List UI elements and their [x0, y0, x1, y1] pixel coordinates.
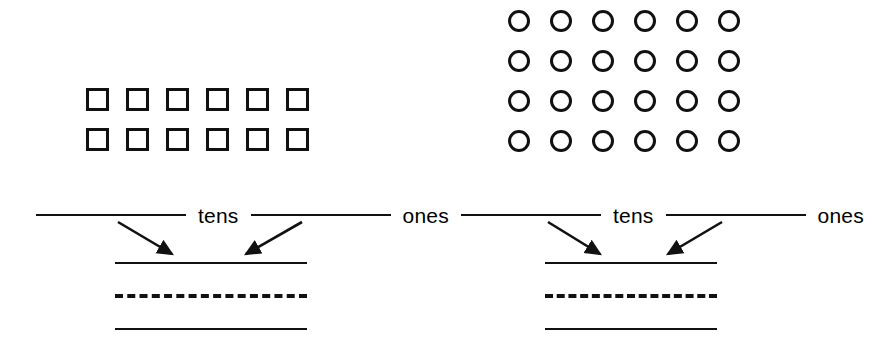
circle-cell	[508, 90, 530, 112]
guide-top-line-circles	[545, 262, 717, 264]
circle-cell	[634, 10, 656, 32]
square-cell	[166, 88, 189, 111]
circle-icon	[508, 90, 530, 112]
square-cell	[126, 128, 149, 151]
circle-icon	[634, 50, 656, 72]
circle-icon	[592, 90, 614, 112]
circle-cell	[592, 10, 614, 32]
square-manipulative-grid	[86, 88, 309, 151]
tens-blank-circles[interactable]	[461, 214, 601, 216]
circle-icon	[592, 50, 614, 72]
circle-cell	[592, 130, 614, 152]
ones-label-squares: ones	[403, 205, 449, 226]
square-icon	[166, 128, 189, 151]
circle-row	[508, 130, 740, 152]
circle-icon	[634, 130, 656, 152]
circle-icon	[718, 10, 740, 32]
circle-icon	[676, 50, 698, 72]
circle-icon	[508, 10, 530, 32]
circle-cell	[676, 130, 698, 152]
guide-middle-line-circles	[545, 294, 717, 298]
square-icon	[206, 88, 229, 111]
writing-guide-circles[interactable]	[545, 262, 717, 330]
square-cell	[86, 128, 109, 151]
circle-cell	[592, 50, 614, 72]
circle-cell	[550, 130, 572, 152]
circle-manipulative-grid	[508, 10, 740, 152]
square-cell	[166, 128, 189, 151]
circle-cell	[676, 90, 698, 112]
circle-icon	[550, 130, 572, 152]
circle-icon	[508, 130, 530, 152]
square-icon	[166, 88, 189, 111]
guide-middle-line-squares	[115, 294, 307, 298]
circle-row	[508, 90, 740, 112]
circle-icon	[718, 130, 740, 152]
square-cell	[206, 88, 229, 111]
circle-cell	[550, 10, 572, 32]
square-cell	[246, 88, 269, 111]
square-icon	[286, 128, 309, 151]
ones-blank-squares[interactable]	[251, 214, 391, 216]
circle-cell	[676, 10, 698, 32]
circle-cell	[508, 50, 530, 72]
writing-guide-squares[interactable]	[115, 262, 307, 330]
tens-blank-squares[interactable]	[36, 214, 186, 216]
square-icon	[86, 88, 109, 111]
circle-cell	[592, 90, 614, 112]
circle-cell	[718, 90, 740, 112]
square-icon	[126, 88, 149, 111]
square-row	[86, 88, 309, 111]
circle-cell	[718, 50, 740, 72]
worksheet-page: tens ones tens ones	[0, 0, 893, 346]
circle-icon	[550, 10, 572, 32]
circle-icon	[634, 90, 656, 112]
circle-cell	[508, 130, 530, 152]
square-icon	[246, 128, 269, 151]
circle-icon	[550, 90, 572, 112]
place-value-row-circles: tens ones	[461, 200, 864, 230]
circle-row	[508, 10, 740, 32]
square-cell	[286, 88, 309, 111]
circle-row	[508, 50, 740, 72]
circle-icon	[676, 90, 698, 112]
circle-icon	[676, 130, 698, 152]
square-cell	[126, 88, 149, 111]
guide-top-line-squares	[115, 262, 307, 264]
square-icon	[126, 128, 149, 151]
circle-cell	[718, 10, 740, 32]
square-icon	[246, 88, 269, 111]
circle-icon	[550, 50, 572, 72]
place-value-row-squares: tens ones	[36, 200, 449, 230]
circle-cell	[676, 50, 698, 72]
circle-icon	[718, 50, 740, 72]
circle-cell	[634, 90, 656, 112]
circle-cell	[508, 10, 530, 32]
square-cell	[286, 128, 309, 151]
tens-label-squares: tens	[198, 205, 239, 226]
circle-icon	[676, 10, 698, 32]
circle-icon	[508, 50, 530, 72]
ones-blank-circles[interactable]	[666, 214, 806, 216]
circle-cell	[634, 130, 656, 152]
guide-bottom-line-squares	[115, 328, 307, 330]
circle-cell	[550, 50, 572, 72]
square-cell	[206, 128, 229, 151]
circle-cell	[634, 50, 656, 72]
square-row	[86, 128, 309, 151]
ones-label-circles: ones	[818, 205, 864, 226]
square-icon	[86, 128, 109, 151]
circle-cell	[550, 90, 572, 112]
square-icon	[286, 88, 309, 111]
square-cell	[246, 128, 269, 151]
circle-icon	[592, 130, 614, 152]
tens-label-circles: tens	[613, 205, 654, 226]
circle-icon	[634, 10, 656, 32]
square-icon	[206, 128, 229, 151]
square-cell	[86, 88, 109, 111]
circle-icon	[718, 90, 740, 112]
circle-icon	[592, 10, 614, 32]
circle-cell	[718, 130, 740, 152]
guide-bottom-line-circles	[545, 328, 717, 330]
